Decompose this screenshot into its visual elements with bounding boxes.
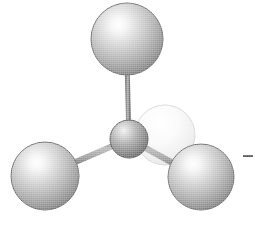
atom-center	[110, 120, 148, 158]
molecule-canvas	[0, 0, 255, 228]
molecular-model-figure: Ball-and-stick molecular model	[0, 0, 255, 228]
atom-bottom-left	[11, 142, 79, 210]
atom-bottom-right	[168, 144, 234, 210]
atom-top	[91, 3, 163, 75]
